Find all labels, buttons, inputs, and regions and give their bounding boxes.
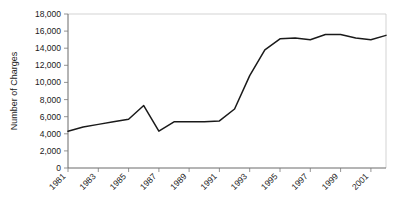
y-tick-label: 10,000 bbox=[35, 77, 61, 87]
y-axis-title: Number of Charges bbox=[9, 51, 19, 130]
y-tick-label: 8,000 bbox=[40, 95, 62, 105]
y-tick-label: 2,000 bbox=[40, 146, 62, 156]
y-tick-label: 16,000 bbox=[35, 26, 61, 36]
y-tick-label: 12,000 bbox=[35, 60, 61, 70]
line-chart: 0 2,000 4,000 6,000 8,000 10,000 12,000 … bbox=[0, 0, 399, 224]
y-tick-label: 14,000 bbox=[35, 43, 61, 53]
y-tick-label: 0 bbox=[56, 163, 61, 173]
y-tick-label: 18,000 bbox=[35, 9, 61, 19]
y-tick-label: 4,000 bbox=[40, 129, 62, 139]
y-tick-label: 6,000 bbox=[40, 112, 62, 122]
chart-container: 0 2,000 4,000 6,000 8,000 10,000 12,000 … bbox=[0, 0, 399, 224]
